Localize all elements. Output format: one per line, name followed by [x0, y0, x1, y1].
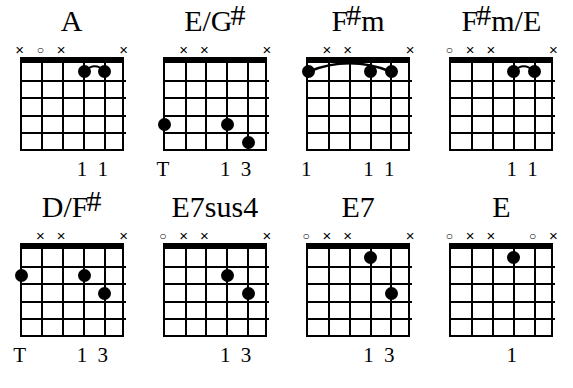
- string-line: [349, 249, 351, 337]
- chord-name-base: E7: [341, 190, 374, 223]
- fretboard: [20, 243, 124, 337]
- fret-line: [308, 301, 412, 303]
- chord-diagram: E7sus413: [143, 186, 286, 372]
- fret-line: [451, 318, 555, 320]
- barre-arc: [22, 63, 126, 151]
- fret-line: [22, 97, 126, 99]
- fret-line: [165, 80, 269, 82]
- string-line: [471, 63, 473, 151]
- fingering-row: 13: [163, 342, 267, 372]
- barre-arc: [308, 63, 412, 151]
- muted-string-icon: [543, 229, 564, 243]
- string-line: [492, 63, 494, 151]
- fret-grid: [163, 249, 267, 337]
- finger-dot: [364, 251, 377, 264]
- muted-string-icon: [400, 43, 421, 57]
- fret-line: [165, 115, 269, 117]
- fret-line: [165, 132, 269, 134]
- chord-row: D/F#T13E7sus413E713E1: [0, 186, 573, 372]
- muted-string-icon: [481, 229, 502, 243]
- finger-number: 1: [293, 156, 319, 182]
- chord-name: E7sus4: [172, 186, 259, 228]
- finger-dot: [242, 287, 255, 300]
- fret-grid: [20, 63, 124, 151]
- string-line: [492, 249, 494, 337]
- string-markers: [163, 228, 267, 243]
- fret-line: [451, 132, 555, 134]
- string-line: [205, 249, 207, 337]
- fretboard: [449, 243, 553, 337]
- muted-string-icon: [317, 229, 338, 243]
- finger-dot: [385, 65, 398, 78]
- fret-line: [165, 318, 269, 320]
- chord-diagram: A11: [0, 0, 143, 186]
- finger-number: 1: [376, 156, 402, 182]
- muted-string-icon: [194, 43, 215, 57]
- fret-line: [308, 283, 412, 285]
- fret-grid: [306, 63, 410, 151]
- finger-number: T: [150, 156, 176, 182]
- chord-name: A: [61, 0, 83, 42]
- chord-name-tail: m: [361, 4, 384, 37]
- sharp-icon: #: [86, 184, 101, 217]
- string-line: [534, 249, 536, 337]
- muted-string-icon: [256, 229, 277, 243]
- muted-string-icon: [460, 229, 481, 243]
- finger-dot: [221, 269, 234, 282]
- fret-line: [22, 318, 126, 320]
- string-line: [328, 63, 330, 151]
- chord-diagram: F#m/E11: [430, 0, 573, 186]
- open-string-icon: [439, 229, 460, 243]
- fret-line: [451, 266, 555, 268]
- chord-name-tail: m/E: [491, 4, 541, 37]
- fret-line: [165, 283, 269, 285]
- muted-string-icon: [113, 43, 134, 57]
- fret-line: [451, 283, 555, 285]
- fingering-row: 11: [20, 156, 124, 186]
- chord-name-base: A: [61, 4, 83, 37]
- string-line: [83, 249, 85, 337]
- finger-dot: [221, 118, 234, 131]
- fret-grid: [163, 63, 267, 151]
- string-line: [205, 63, 207, 151]
- finger-number: 3: [233, 342, 259, 368]
- finger-dot: [98, 65, 111, 78]
- fret-line: [308, 266, 412, 268]
- string-line: [62, 249, 64, 337]
- fret-grid: [449, 63, 553, 151]
- chord-name-base: E7sus4: [172, 190, 259, 223]
- fret-line: [451, 80, 555, 82]
- string-markers: [449, 228, 553, 243]
- muted-string-icon: [113, 229, 134, 243]
- finger-dot: [302, 65, 315, 78]
- string-line: [41, 249, 43, 337]
- muted-string-icon: [194, 229, 215, 243]
- string-line: [62, 63, 64, 151]
- chord-name-base: D/F: [42, 190, 89, 223]
- finger-number: T: [7, 342, 33, 368]
- fingering-row: 11: [449, 156, 553, 186]
- chord-name: E/G#: [184, 0, 245, 42]
- muted-string-icon: [173, 43, 194, 57]
- muted-string-icon: [256, 43, 277, 57]
- fret-line: [451, 115, 555, 117]
- fret-line: [451, 97, 555, 99]
- fretboard: [163, 243, 267, 337]
- muted-string-icon: [460, 43, 481, 57]
- finger-dot: [15, 269, 28, 282]
- string-markers: [163, 42, 267, 57]
- string-markers: [449, 42, 553, 57]
- fret-line: [308, 80, 412, 82]
- open-string-icon: [30, 43, 51, 57]
- muted-string-icon: [337, 43, 358, 57]
- fret-line: [165, 301, 269, 303]
- chord-row: A11E/G#T13F#m111F#m/E11: [0, 0, 573, 186]
- finger-number: 1: [90, 156, 116, 182]
- fret-line: [22, 283, 126, 285]
- fretboard: [306, 243, 410, 337]
- fret-line: [451, 301, 555, 303]
- fretboard: [20, 57, 124, 151]
- open-string-icon: [296, 229, 317, 243]
- fingering-row: T13: [163, 156, 267, 186]
- chord-name: D/F#: [42, 186, 102, 228]
